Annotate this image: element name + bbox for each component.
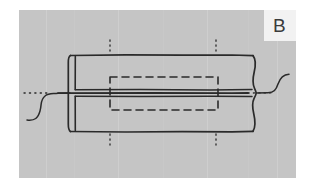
figure-container: B xyxy=(0,0,314,188)
figure-label-letter: B xyxy=(273,15,286,36)
tube-bottom-edge xyxy=(71,131,254,132)
technical-drawing-svg: B xyxy=(0,0,314,188)
figure-panel xyxy=(19,10,296,178)
tube-top-edge xyxy=(71,55,254,56)
figure-label-group: B xyxy=(264,10,296,41)
